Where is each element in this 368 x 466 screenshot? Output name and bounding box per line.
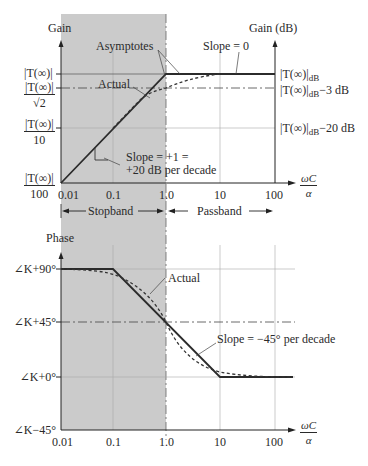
slope-plus-annotation-2: +20 dB per decade <box>126 164 216 176</box>
gain-db-tick-max: |T(∞)|dB <box>280 68 319 80</box>
phase-actual-annotation: Actual <box>168 272 200 284</box>
phase-tick-45: ∠K+45° <box>4 316 56 328</box>
phase-x-axis-label: ωC α <box>300 420 317 446</box>
phase-x-tick-4: 100 <box>265 436 283 448</box>
gain-db-axis-arrow-icon <box>273 40 278 47</box>
passband-label: Passband <box>197 205 242 217</box>
slope-plus-annotation-1: Slope = +1 = <box>126 151 189 163</box>
gain-tick-max: |T(∞)| <box>24 67 53 79</box>
gain-tick-sqrt2: |T(∞)| √2 <box>24 81 55 109</box>
gain-db-tick-20db: |T(∞)|dB−20 dB <box>280 122 355 134</box>
phase-tick-90: ∠K+90° <box>4 263 56 275</box>
gain-tick-10: |T(∞)| 10 <box>24 118 55 146</box>
gain-x-tick-0: 0.01 <box>58 189 79 201</box>
gain-x-tick-2: 1.0 <box>159 189 174 201</box>
gain-actual-annotation: Actual <box>98 78 130 90</box>
asymptotes-annotation: Asymptotes <box>96 40 153 52</box>
gain-x-tick-4: 100 <box>265 189 283 201</box>
phase-axis-title: Phase <box>46 232 74 244</box>
gain-x-axis-label: ωC α <box>300 173 317 199</box>
phase-slope-annotation: Slope = −45° per decade <box>217 333 335 345</box>
gain-db-tick-3db: |T(∞)|dB−3 dB <box>280 84 349 96</box>
passband-right-arrow-icon <box>266 209 273 214</box>
slope-zero-annotation: Slope = 0 <box>203 40 249 52</box>
gain-x-tick-3: 10 <box>214 189 226 201</box>
passband-left-arrow-icon <box>168 209 175 214</box>
phase-x-tick-1: 0.1 <box>106 436 121 448</box>
gain-tick-100: |T(∞)| 100 <box>24 172 55 200</box>
phase-x-tick-2: 1.0 <box>159 436 174 448</box>
stopband-label: Stopband <box>88 205 133 217</box>
gain-db-axis-title: Gain (dB) <box>249 22 297 34</box>
gain-x-axis-arrow-icon <box>288 181 296 186</box>
phase-x-axis-arrow-icon <box>288 428 296 433</box>
gain-x-tick-1: 0.1 <box>106 189 121 201</box>
phase-tick-minus45: ∠K−45° <box>4 424 56 436</box>
phase-x-tick-3: 10 <box>214 436 226 448</box>
phase-tick-0: ∠K+0° <box>4 371 56 383</box>
gain-axis-title: Gain <box>48 22 71 34</box>
phase-x-tick-0: 0.01 <box>52 436 73 448</box>
